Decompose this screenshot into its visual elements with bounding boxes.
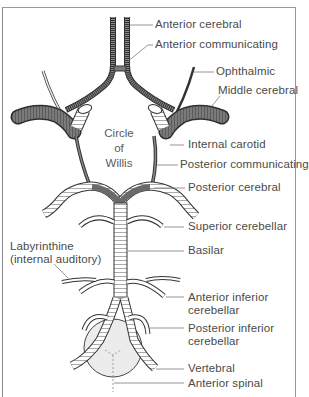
label-vertebral: Vertebral <box>188 362 235 375</box>
label-anterior-inferior-cerebellar: Anterior inferior cerebellar <box>188 291 268 317</box>
label-posterior-inferior-cerebellar: Posterior inferior cerebellar <box>188 322 274 348</box>
label-pica-line-2: cerebellar <box>188 335 274 348</box>
center-label-line-2: of <box>99 141 139 156</box>
label-posterior-communicating: Posterior communicating <box>180 158 309 171</box>
label-labyrinthine: Labyrinthine (internal auditory) <box>10 240 101 266</box>
circle-of-willis-label: Circle of Willis <box>99 126 139 171</box>
center-label-line-1: Circle <box>99 126 139 141</box>
label-anterior-cerebral: Anterior cerebral <box>155 18 242 31</box>
label-anterior-spinal: Anterior spinal <box>188 377 263 390</box>
label-anterior-communicating: Anterior communicating <box>155 38 278 51</box>
label-pica-line-1: Posterior inferior <box>188 322 274 335</box>
label-ophthalmic: Ophthalmic <box>216 65 275 78</box>
label-internal-carotid: Internal carotid <box>188 138 266 151</box>
label-superior-cerebellar: Superior cerebellar <box>188 220 287 233</box>
label-basilar: Basilar <box>188 244 224 257</box>
label-labyrinthine-line-1: Labyrinthine <box>10 240 101 253</box>
center-label-line-3: Willis <box>99 156 139 171</box>
label-labyrinthine-line-2: (internal auditory) <box>10 253 101 266</box>
label-middle-cerebral: Middle cerebral <box>218 84 298 97</box>
label-posterior-cerebral: Posterior cerebral <box>188 181 281 194</box>
label-aica-line-2: cerebellar <box>188 304 268 317</box>
label-aica-line-1: Anterior inferior <box>188 291 268 304</box>
internal-carotid-arteries <box>76 103 164 128</box>
basilar-artery <box>114 203 127 298</box>
